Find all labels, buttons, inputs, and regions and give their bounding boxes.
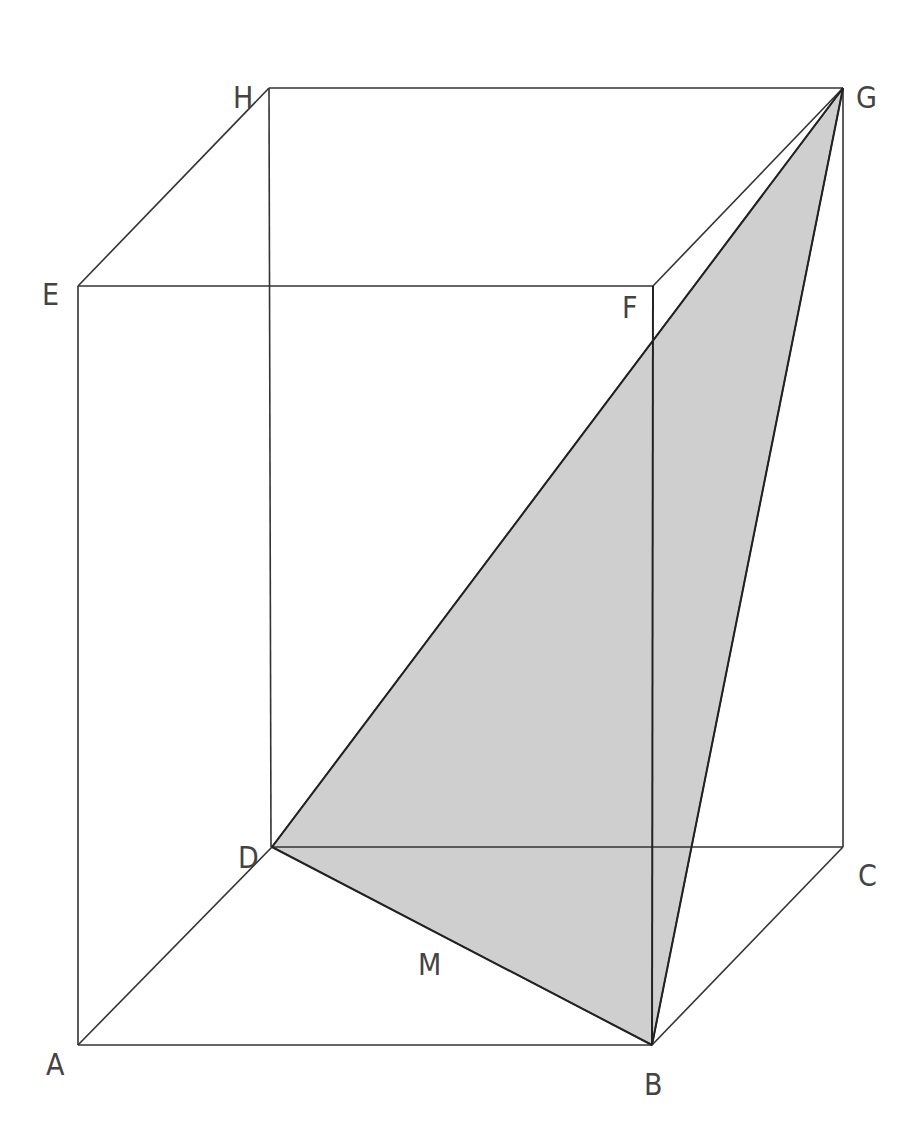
shaded-triangle-dbg: [272, 88, 843, 1045]
label-g: G: [856, 80, 877, 115]
prism-diagram: H G E F D C M A B: [0, 0, 920, 1130]
label-e: E: [42, 277, 59, 312]
label-h: H: [233, 80, 253, 115]
label-f: F: [622, 290, 638, 325]
edge-bf: [652, 286, 653, 1045]
label-a: A: [46, 1047, 65, 1082]
label-d: D: [238, 840, 259, 875]
label-c: C: [858, 858, 877, 893]
edge-ad: [78, 847, 272, 1045]
label-b: B: [644, 1067, 663, 1102]
edge-dh: [269, 88, 271, 847]
label-m: M: [418, 947, 441, 982]
edge-eh: [78, 88, 269, 286]
